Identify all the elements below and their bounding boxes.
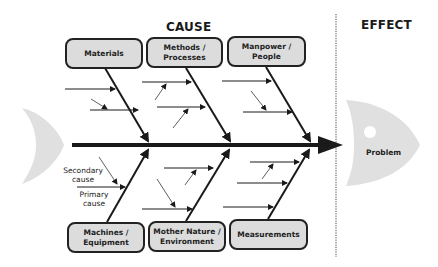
- bone-methods: [142, 68, 230, 141]
- bone-measurements: [223, 150, 309, 219]
- problem-label: Problem: [366, 148, 401, 157]
- cause-heading: CAUSE: [166, 20, 211, 34]
- category-mother-nature: Mother Nature / Environment: [148, 221, 226, 252]
- bone-manpower: [222, 67, 310, 141]
- effect-heading: EFFECT: [361, 18, 412, 32]
- primary-cause-label: Primary cause: [74, 190, 114, 208]
- fish-head-shape: [346, 100, 420, 186]
- category-methods: Methods / Processes: [146, 37, 223, 68]
- category-machines: Machines / Equipment: [67, 222, 145, 253]
- fish-tail-shape: [22, 108, 64, 184]
- fish-eye-icon: [364, 126, 376, 138]
- spine-arrowhead-icon: [318, 136, 343, 154]
- category-measurements: Measurements: [229, 219, 308, 250]
- bone-materials: [65, 68, 148, 141]
- secondary-cause-label: Secondary cause: [60, 166, 106, 184]
- category-materials: Materials: [65, 38, 143, 69]
- bone-machines: [77, 150, 148, 222]
- category-manpower: Manpower / People: [227, 36, 306, 67]
- bone-mother-nature: [142, 150, 229, 221]
